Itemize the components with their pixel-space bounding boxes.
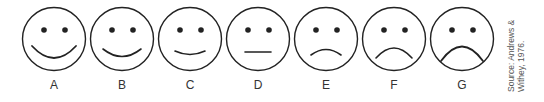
face-g-very-sad (429, 6, 495, 72)
face-label-d: D (225, 78, 291, 92)
frown-face-icon (293, 6, 359, 72)
face-label-f: F (361, 78, 427, 92)
face-d-neutral (225, 6, 291, 72)
frown-face-icon (429, 6, 495, 72)
smiley-face-icon (21, 6, 87, 72)
faces-scale: A B C D E (0, 0, 544, 102)
face-c-slightly-happy (157, 6, 223, 72)
source-line-2: Withey, 1976. (516, 20, 526, 92)
face-b-happy (89, 6, 155, 72)
source-line-1: Source: Andrews & (506, 20, 516, 92)
face-label-g: G (429, 78, 495, 92)
smiley-face-icon (89, 6, 155, 72)
face-label-c: C (157, 78, 223, 92)
face-label-a: A (21, 78, 87, 92)
neutral-face-icon (225, 6, 291, 72)
face-f-sad (361, 6, 427, 72)
source-citation: Source: Andrews & Withey, 1976. (506, 20, 526, 92)
frown-face-icon (361, 6, 427, 72)
face-a-very-happy (21, 6, 87, 72)
smiley-face-icon (157, 6, 223, 72)
face-label-b: B (89, 78, 155, 92)
face-e-slightly-sad (293, 6, 359, 72)
face-label-e: E (293, 78, 359, 92)
